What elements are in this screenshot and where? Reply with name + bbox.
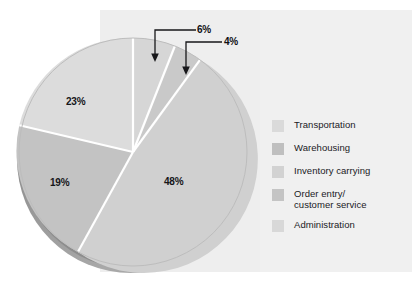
legend-item-warehousing[interactable]: Warehousing	[272, 142, 410, 156]
legend-swatch-warehousing	[272, 143, 284, 155]
legend-item-inventory-carrying[interactable]: Inventory carrying	[272, 165, 410, 179]
legend-swatch-order-entry	[272, 189, 284, 201]
pie-chart-screenshot: 23% 19% 48% 6% 4% Transportation Warehou…	[0, 0, 412, 287]
legend-label-order-entry: Order entry/ customer service	[294, 188, 367, 210]
legend-label-inventory-carrying: Inventory carrying	[294, 165, 370, 176]
legend-item-order-entry[interactable]: Order entry/ customer service	[272, 188, 410, 210]
callout-label-warehousing: 4%	[224, 36, 238, 47]
legend-swatch-inventory-carrying	[272, 166, 284, 178]
chart-area: 23% 19% 48% 6% 4% Transportation Warehou…	[0, 0, 412, 287]
legend-item-transportation[interactable]: Transportation	[272, 119, 410, 133]
legend-label-warehousing: Warehousing	[294, 142, 350, 153]
legend-swatch-administration	[272, 220, 284, 232]
chart-legend: Transportation Warehousing Inventory car…	[272, 119, 410, 242]
legend-item-administration[interactable]: Administration	[272, 219, 410, 233]
legend-label-transportation: Transportation	[294, 119, 356, 130]
slice-label-administration: 23%	[66, 96, 85, 107]
slice-label-inventory-carrying: 48%	[164, 176, 183, 187]
slice-label-order-entry: 19%	[50, 177, 69, 188]
legend-label-administration: Administration	[294, 219, 355, 230]
legend-swatch-transportation	[272, 120, 284, 132]
callout-label-transportation: 6%	[197, 24, 211, 35]
